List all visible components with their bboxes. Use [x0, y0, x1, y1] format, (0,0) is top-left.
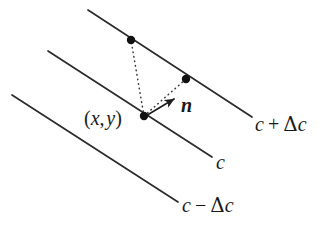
upper-line-label: c + Δc	[255, 114, 307, 134]
upper-label-delta: Δ	[283, 112, 297, 136]
data-point-upper-left	[127, 36, 135, 44]
coord-y: y	[106, 107, 115, 129]
lower-label-operator: −	[195, 194, 206, 216]
upper-label-delta-base: c	[298, 113, 307, 135]
coord-comma: ,	[100, 107, 105, 129]
level-set-diagram: (x, y) n c + Δc c c − Δc	[0, 0, 331, 226]
lower-line-label: c − Δc	[182, 195, 234, 215]
dotted-connector-right	[144, 79, 186, 116]
lower-label-delta: Δ	[210, 193, 224, 217]
point-coordinate-label: (x, y)	[84, 108, 122, 128]
normal-vector-label: n	[181, 95, 192, 115]
data-point-upper-right	[182, 75, 190, 83]
lower-label-delta-base: c	[225, 194, 234, 216]
upper-label-operator: +	[268, 113, 279, 135]
paren-close: )	[115, 107, 122, 129]
coord-x: x	[91, 107, 100, 129]
lower-label-base: c	[182, 194, 191, 216]
dotted-connector-left	[131, 40, 144, 116]
upper-label-base: c	[255, 113, 264, 135]
paren-open: (	[84, 107, 91, 129]
normal-vector-arrow	[144, 99, 174, 117]
middle-line-label: c	[216, 152, 225, 172]
data-point-center	[140, 112, 148, 120]
